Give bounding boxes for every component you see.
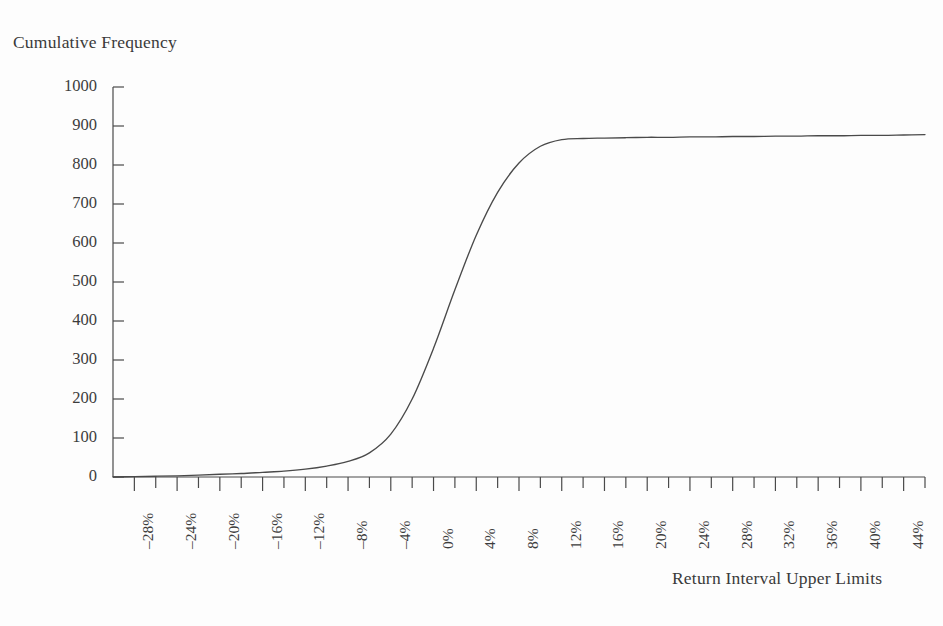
x-axis-tick-label: 40% bbox=[867, 521, 883, 549]
x-axis-tick-label: –28% bbox=[140, 513, 156, 549]
x-axis-tick-label: 24% bbox=[696, 521, 712, 549]
x-axis-tick-label: 4% bbox=[482, 528, 498, 549]
x-axis-tick-label: 36% bbox=[824, 521, 840, 549]
y-axis-tick-label: 1000 bbox=[27, 78, 97, 95]
x-axis-tick-label: –24% bbox=[183, 513, 199, 549]
y-axis-tick-label: 100 bbox=[27, 429, 97, 446]
x-axis-tick-label: –8% bbox=[354, 521, 370, 549]
x-axis-tick-label: 20% bbox=[653, 521, 669, 549]
y-axis-tick-label: 700 bbox=[27, 195, 97, 212]
x-axis-tick-label: 44% bbox=[910, 521, 926, 549]
x-axis-tick-label: 16% bbox=[610, 521, 626, 549]
x-axis-tick-label: –20% bbox=[226, 513, 242, 549]
y-axis-tick-label: 0 bbox=[27, 468, 97, 485]
x-axis-tick-label: –16% bbox=[269, 513, 285, 549]
cumulative-frequency-line bbox=[113, 135, 925, 477]
x-axis-tick-label: 8% bbox=[525, 528, 541, 549]
y-axis-tick-label: 900 bbox=[27, 117, 97, 134]
x-axis-tick-label: –12% bbox=[311, 513, 327, 549]
y-axis-tick-label: 400 bbox=[27, 312, 97, 329]
y-axis-tick-label: 200 bbox=[27, 390, 97, 407]
cumulative-frequency-chart: Cumulative Frequency 0100200300400500600… bbox=[0, 0, 943, 626]
x-axis-tick-label: 0% bbox=[440, 528, 456, 549]
y-axis-tick-label: 800 bbox=[27, 156, 97, 173]
x-axis-title: Return Interval Upper Limits bbox=[672, 568, 882, 589]
x-axis-tick-label: –4% bbox=[397, 521, 413, 549]
y-axis-tick-label: 300 bbox=[27, 351, 97, 368]
x-axis-tick-label: 12% bbox=[568, 521, 584, 549]
y-axis-tick-label: 600 bbox=[27, 234, 97, 251]
axes bbox=[113, 87, 925, 491]
x-axis-tick-label: 32% bbox=[781, 521, 797, 549]
x-axis-tick-label: 28% bbox=[739, 521, 755, 549]
y-axis-tick-label: 500 bbox=[27, 273, 97, 290]
